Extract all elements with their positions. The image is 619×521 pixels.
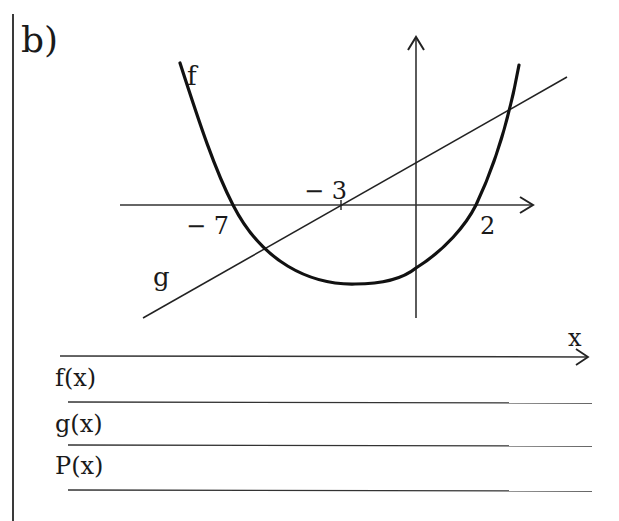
curve-f-label: f: [187, 61, 199, 91]
function-graph: f g − 3 − 7 2 x: [0, 0, 619, 521]
sign-table-rule-1: [68, 402, 592, 403]
sign-table: x: [60, 324, 592, 491]
sign-table-rule-2: [68, 445, 592, 446]
line-g-label: g: [153, 262, 170, 292]
sign-table-x-axis: [60, 356, 587, 357]
sign-row-label-p: P(x): [55, 452, 103, 480]
tick-label-two: 2: [480, 212, 495, 240]
sign-row-label-g: g(x): [55, 410, 103, 438]
y-axis: [408, 37, 424, 318]
sign-table-variable-label: x: [568, 324, 582, 352]
tick-label-minus-seven: − 7: [186, 212, 229, 240]
sign-table-rule-3: [68, 490, 592, 491]
tick-label-minus-three: − 3: [304, 177, 347, 205]
line-g: [143, 77, 567, 318]
sign-row-label-f: f(x): [55, 364, 96, 392]
curve-f: [180, 63, 519, 284]
